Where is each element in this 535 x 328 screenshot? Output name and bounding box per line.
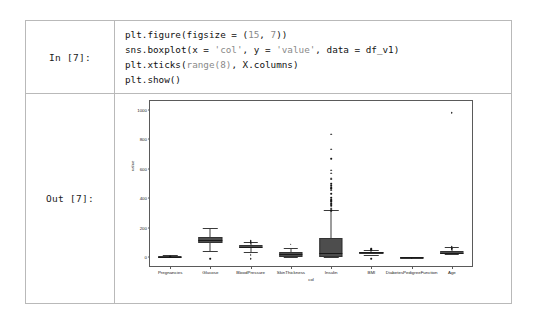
boxplot-box-age <box>432 101 472 266</box>
x-axis-tick-label: BloodPressure <box>236 270 265 275</box>
code-text: , data = df_v1) <box>315 44 399 55</box>
code-text: , y = <box>243 44 277 55</box>
code-string: 'col' <box>215 44 243 55</box>
outlier-point <box>451 112 453 114</box>
outlier-point <box>330 173 332 175</box>
boxplot-box-diabetespedigreefunction <box>392 101 432 266</box>
code-line-4: plt.show() <box>125 74 181 85</box>
whisker-cap-upper <box>203 228 217 229</box>
x-axis-tick-label: Pregnancies <box>158 270 182 275</box>
median-line <box>319 253 342 254</box>
y-axis-label: value <box>130 160 135 171</box>
code-text: , <box>259 29 270 40</box>
code-builtin: range( <box>187 59 221 70</box>
whisker-cap-lower <box>284 257 298 258</box>
outlier-point <box>330 183 332 185</box>
matplotlib-figure: value col 02004006008001000PregnanciesGl… <box>115 94 512 303</box>
code-text: plt.xticks( <box>125 59 187 70</box>
x-axis-tick-mark <box>291 266 292 269</box>
outlier-point <box>330 199 332 201</box>
outlier-point <box>330 133 332 135</box>
output-cell-row: Out [7]: value col 02004006008001000Preg… <box>26 94 511 303</box>
x-axis-tick-mark <box>412 266 413 269</box>
outlier-point <box>451 246 453 248</box>
outlier-point <box>330 210 332 212</box>
code-block: plt.figure(figsize = (15, 7)) sns.boxplo… <box>125 27 503 87</box>
boxplot-box-bmi <box>351 101 391 266</box>
x-axis-tick-mark <box>371 266 372 269</box>
whisker-cap-lower <box>364 255 378 256</box>
code-text: , X.columns) <box>231 59 298 70</box>
outlier-point <box>250 240 252 242</box>
code-line-2: sns.boxplot(x = 'col', y = 'value', data… <box>125 44 399 55</box>
outlier-point <box>330 185 332 187</box>
x-axis-tick-mark <box>210 266 211 269</box>
outlier-point <box>250 254 252 256</box>
outlier-point <box>290 243 292 245</box>
x-axis-tick-mark <box>331 266 332 269</box>
outlier-point <box>250 258 252 260</box>
whisker-cap-lower <box>243 252 257 253</box>
median-line <box>199 240 222 241</box>
x-axis-tick-label: DiabetesPedigreeFunction <box>386 270 438 275</box>
code-line-3: plt.xticks(range(8), X.columns) <box>125 59 299 70</box>
x-axis-label: col <box>308 277 314 282</box>
median-line <box>440 253 463 254</box>
median-line <box>360 252 383 253</box>
code-string: 'value' <box>276 44 315 55</box>
outlier-point <box>330 203 332 205</box>
boxplot-box-insulin <box>311 101 351 266</box>
x-axis-tick-label: Glucose <box>202 270 218 275</box>
median-line <box>279 254 302 255</box>
output-area: value col 02004006008001000PregnanciesGl… <box>115 94 511 303</box>
code-text: sns.boxplot(x = <box>125 44 215 55</box>
whisker-upper <box>331 210 332 238</box>
code-editor[interactable]: plt.figure(figsize = (15, 7)) sns.boxplo… <box>115 21 511 93</box>
boxplot-box-skinthickness <box>271 101 311 266</box>
outlier-point <box>330 200 332 202</box>
whisker-cap-upper <box>284 248 298 249</box>
whisker-cap-lower <box>324 257 338 258</box>
outlier-point <box>330 187 332 189</box>
input-cell-row: In [7]: plt.figure(figsize = (15, 7)) sn… <box>26 21 511 94</box>
outlier-point <box>169 255 171 257</box>
outlier-point <box>330 178 332 180</box>
input-prompt-label: In [7]: <box>26 21 115 93</box>
outlier-point <box>330 193 332 195</box>
outlier-point <box>371 248 373 250</box>
outlier-point <box>411 258 413 260</box>
outlier-point <box>371 258 373 260</box>
x-axis-tick-mark <box>452 266 453 269</box>
code-text: )) <box>276 29 287 40</box>
outlier-point <box>330 205 332 207</box>
boxplot-box-glucose <box>190 101 230 266</box>
x-axis-tick-label: Age <box>448 270 456 275</box>
outlier-point <box>330 208 332 210</box>
code-text: plt.figure(figsize = ( <box>125 29 248 40</box>
notebook-cells: In [7]: plt.figure(figsize = (15, 7)) sn… <box>25 20 512 304</box>
boxplot-box-pregnancies <box>150 101 190 266</box>
x-axis-tick-label: SkinThickness <box>277 270 305 275</box>
boxplot-box-bloodpressure <box>231 101 271 266</box>
x-axis-tick-mark <box>251 266 252 269</box>
whisker-cap-lower <box>203 251 217 252</box>
whisker-cap-lower <box>445 254 459 255</box>
whisker-upper <box>210 228 211 237</box>
whisker-lower <box>210 243 211 251</box>
x-axis-tick-label: Insulin <box>325 270 338 275</box>
outlier-point <box>330 197 332 199</box>
boxplot-axes: value col 02004006008001000PregnanciesGl… <box>149 100 473 267</box>
output-prompt-label: Out [7]: <box>26 94 115 303</box>
median-line <box>239 247 262 248</box>
x-axis-tick-mark <box>170 266 171 269</box>
outlier-point <box>330 148 332 150</box>
code-line-1: plt.figure(figsize = (15, 7)) <box>125 29 287 40</box>
outlier-point <box>330 170 332 172</box>
code-number: 15 <box>248 29 259 40</box>
outlier-point <box>210 258 212 260</box>
box-iqr-rect <box>319 238 342 257</box>
outlier-point <box>330 158 332 160</box>
x-axis-tick-label: BMI <box>367 270 375 275</box>
